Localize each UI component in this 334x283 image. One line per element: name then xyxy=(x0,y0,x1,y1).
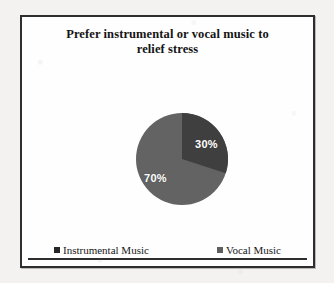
legend-label-vocal-music: Vocal Music xyxy=(226,244,281,256)
chart-title: Prefer instrumental or vocal music to re… xyxy=(32,27,303,56)
plot-area: 30% 70% xyxy=(22,53,313,228)
legend-item-instrumental-music[interactable]: Instrumental Music xyxy=(54,244,149,256)
pie-svg xyxy=(135,112,229,206)
legend-divider xyxy=(28,258,307,260)
pie-chart: 30% 70% xyxy=(135,112,229,206)
legend-swatch-icon-vocal-music xyxy=(217,247,223,253)
legend-swatch-icon-instrumental-music xyxy=(54,247,60,253)
legend-item-vocal-music[interactable]: Vocal Music xyxy=(217,244,281,256)
pie-label-instrumental-music: 30% xyxy=(195,138,218,150)
chart-legend: Instrumental Music Vocal Music xyxy=(22,238,313,260)
legend-items: Instrumental Music Vocal Music xyxy=(22,244,313,256)
chart-frame: Prefer instrumental or vocal music to re… xyxy=(20,15,315,268)
legend-label-instrumental-music: Instrumental Music xyxy=(63,244,149,256)
pie-label-vocal-music: 70% xyxy=(144,172,167,184)
chart-title-line-1: Prefer instrumental or vocal music to xyxy=(32,27,303,42)
